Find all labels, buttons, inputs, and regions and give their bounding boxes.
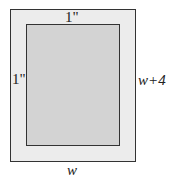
top-margin-label: 1" bbox=[65, 10, 79, 25]
inner-picture-rectangle bbox=[26, 24, 120, 146]
width-label: w bbox=[67, 163, 77, 178]
height-label: w+4 bbox=[138, 73, 166, 88]
left-margin-label: 1" bbox=[12, 72, 26, 87]
